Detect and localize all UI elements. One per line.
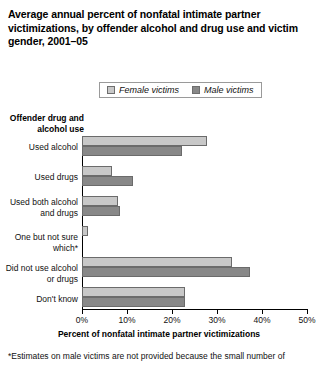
legend-swatch-female xyxy=(107,86,115,94)
legend-label-female: Female victims xyxy=(119,85,179,95)
category-axis-title: Offender drug and alcohol use xyxy=(4,113,84,135)
category-label: Used drugs xyxy=(0,172,78,183)
bar xyxy=(82,146,182,156)
axis-tick-label: 20% xyxy=(163,315,180,325)
category-label: Did not use alcohol or drugs xyxy=(0,263,78,284)
bar xyxy=(82,206,120,216)
axis-tick xyxy=(127,310,128,314)
axis-tick xyxy=(172,310,173,314)
axis-tick xyxy=(82,310,83,314)
chart-title: Average annual percent of nonfatal intim… xyxy=(8,8,300,49)
chart-figure: Average annual percent of nonfatal intim… xyxy=(0,0,318,371)
legend-item-female: Female victims xyxy=(107,85,179,95)
bar xyxy=(82,136,207,146)
bar xyxy=(82,287,185,297)
value-axis-line xyxy=(82,309,308,310)
bar xyxy=(82,166,112,176)
chart-legend: Female victims Male victims xyxy=(99,82,262,98)
bar xyxy=(82,226,88,236)
bar xyxy=(82,297,185,307)
bar xyxy=(82,257,232,267)
axis-tick-label: 0% xyxy=(76,315,88,325)
bar xyxy=(82,176,133,186)
legend-item-male: Male victims xyxy=(192,85,254,95)
category-label: Used both alcohol and drugs xyxy=(0,197,78,218)
value-axis-title: Percent of nonfatal intimate partner vic… xyxy=(0,329,318,339)
bar xyxy=(82,196,118,206)
category-label: Don't know xyxy=(0,294,78,305)
axis-tick xyxy=(262,310,263,314)
category-label: Used alcohol xyxy=(0,142,78,153)
bar xyxy=(82,267,250,277)
legend-label-male: Male victims xyxy=(204,85,254,95)
plot-area xyxy=(82,136,307,309)
axis-tick-label: 50% xyxy=(298,315,315,325)
category-label: One but not sure which* xyxy=(0,232,78,253)
chart-footnote: *Estimates on male victims are not provi… xyxy=(8,351,308,362)
legend-swatch-male xyxy=(192,86,200,94)
axis-tick xyxy=(217,310,218,314)
axis-tick-label: 40% xyxy=(253,315,270,325)
axis-tick xyxy=(307,310,308,314)
axis-tick-label: 10% xyxy=(118,315,135,325)
axis-tick-label: 30% xyxy=(208,315,225,325)
